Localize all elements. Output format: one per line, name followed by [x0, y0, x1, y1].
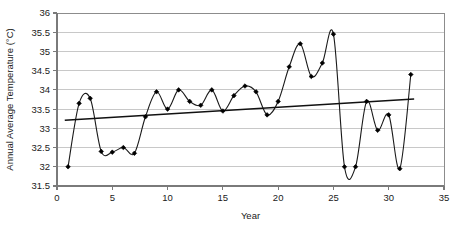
- y-axis-title: Annual Average Temperature (°C): [4, 28, 15, 170]
- annual-average-temperature-line-chart: 31.53232.53333.53434.53535.5360510152025…: [0, 0, 457, 233]
- y-tick-label-35: 35: [39, 46, 50, 57]
- y-axis-ticks: 31.53232.53333.53434.53535.536: [32, 7, 58, 191]
- y-tick-label-34: 34: [39, 84, 50, 95]
- x-tick-label-35: 35: [439, 192, 450, 203]
- y-tick-label-36: 36: [39, 7, 50, 18]
- y-tick-label-32.5: 32.5: [32, 142, 51, 153]
- x-tick-label-0: 0: [54, 192, 59, 203]
- x-tick-label-25: 25: [328, 192, 339, 203]
- y-tick-label-32: 32: [39, 161, 50, 172]
- x-axis-ticks: 05101520253035: [54, 186, 449, 203]
- x-tick-label-15: 15: [218, 192, 229, 203]
- y-tick-label-33: 33: [39, 123, 50, 134]
- y-tick-label-34.5: 34.5: [32, 65, 51, 76]
- x-tick-label-10: 10: [162, 192, 173, 203]
- y-tick-label-33.5: 33.5: [32, 104, 51, 115]
- chart-container: 31.53232.53333.53434.53535.5360510152025…: [0, 0, 457, 233]
- y-tick-label-31.5: 31.5: [32, 180, 51, 191]
- x-tick-label-20: 20: [273, 192, 284, 203]
- x-tick-label-30: 30: [383, 192, 394, 203]
- y-tick-label-35.5: 35.5: [32, 27, 51, 38]
- x-axis-title: Year: [241, 210, 260, 221]
- plot-background: [57, 13, 444, 186]
- x-tick-label-5: 5: [110, 192, 115, 203]
